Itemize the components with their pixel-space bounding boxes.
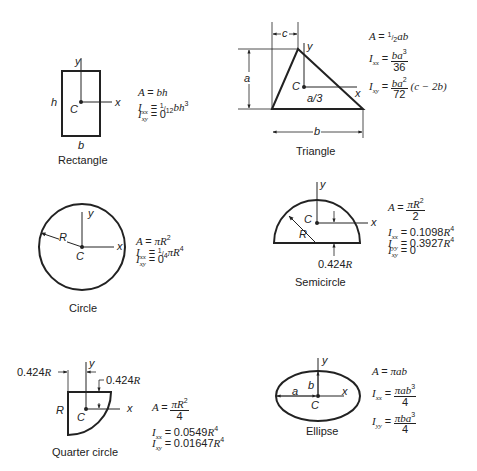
rectangle-shape: [62, 58, 112, 136]
ellipse-centroid-label: C: [311, 399, 319, 411]
semi-caption: Semicircle: [295, 276, 346, 288]
circle-formulas: A = πR2 Ixx = 1/4πR4 Ixy = 0: [136, 232, 184, 265]
quarter-radius-label: R: [56, 404, 64, 416]
ellipse-x-axis-label: x: [342, 385, 348, 397]
quarter-centroid-label: C: [77, 411, 85, 423]
quarter-circle-shape: [58, 362, 120, 435]
semi-formulas: A = πR22 Ixx = 0.1098R4 Iyy = 0.3927R4 I…: [388, 194, 454, 256]
semi-radius-label: R: [299, 228, 307, 240]
quarter-centroid-x-label: 0.424R: [17, 366, 51, 378]
triangle-shape: [238, 22, 363, 138]
semi-y-axis-label: y: [320, 178, 326, 190]
circle-y-axis-label: y: [88, 207, 94, 219]
quarter-y-axis-label: y: [89, 357, 95, 369]
semi-centroid-label: C: [304, 213, 312, 225]
quarter-caption: Quarter circle: [52, 446, 118, 458]
rect-formulas: A = bh Ixx = 1/12bh3 Ixy = 0: [138, 87, 188, 120]
semi-centroid-height-label: 0.424R: [318, 258, 352, 270]
rect-x-axis-label: x: [115, 96, 121, 108]
rect-centroid-label: C: [70, 103, 78, 115]
ellipse-caption: Ellipse: [306, 425, 338, 437]
tri-offset-c-label: c: [281, 27, 289, 39]
tri-height-a-label: a: [244, 72, 250, 84]
tri-x-axis-label: x: [355, 87, 361, 99]
tri-y-axis-label: y: [307, 40, 313, 52]
semicircle-shape: [274, 182, 368, 256]
circle-x-axis-label: x: [117, 240, 123, 252]
circle-caption: Circle: [69, 302, 97, 314]
rect-caption: Rectangle: [58, 154, 108, 166]
tri-formulas: A = 1/2ab Ixx = ba336 Ixy = ba272 (c − 2…: [369, 29, 447, 101]
rect-base-label: b: [78, 139, 84, 151]
circle-shape: [39, 204, 125, 290]
semi-x-axis-label: x: [371, 216, 377, 228]
rect-height-label: h: [51, 96, 57, 108]
ellipse-y-axis-label: y: [322, 354, 328, 366]
ellipse-semi-major-label: a: [292, 385, 298, 397]
tri-caption: Triangle: [296, 145, 335, 157]
quarter-centroid-y-label: 0.424R: [106, 374, 140, 386]
tri-centroid-height-label: a/3: [307, 92, 322, 104]
quarter-x-axis-label: x: [127, 402, 133, 414]
circle-radius-label: R: [59, 231, 67, 243]
circle-centroid-label: C: [76, 250, 84, 262]
tri-base-b-label: b: [313, 125, 321, 137]
quarter-formulas: A = πR24 Ixx = 0.0549R4 Ixy = 0.01647R4: [152, 394, 224, 445]
ellipse-formulas: A = πab Ixx = πab34 Iyy = πba34: [372, 366, 416, 436]
tri-centroid-label: C: [292, 80, 300, 92]
ellipse-semi-minor-label: b: [308, 379, 314, 391]
rect-y-axis-label: y: [75, 55, 81, 67]
